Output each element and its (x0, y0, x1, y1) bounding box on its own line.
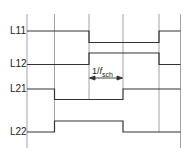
signal-label-l22: L22 (10, 127, 27, 137)
period-annotation: 1/fsch (92, 66, 113, 78)
grid-lines (27, 14, 181, 148)
signal-label-l11: L11 (10, 26, 26, 36)
signal-l12-waveform (27, 53, 181, 65)
signal-l21-waveform (27, 89, 181, 100)
signal-label-l21: L21 (10, 84, 27, 94)
signal-l22-waveform (27, 121, 181, 132)
signal-l11-waveform (27, 31, 181, 43)
annotation-subscript: sch (102, 71, 113, 78)
signal-label-l12: L12 (10, 59, 27, 69)
annotation-prefix: 1/ (92, 66, 100, 76)
